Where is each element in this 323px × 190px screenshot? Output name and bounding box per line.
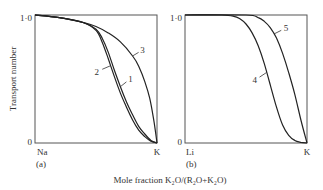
panel-b-xtick-left: Li — [186, 147, 194, 157]
panel-b-xtick-right: K — [304, 147, 311, 157]
panel-b-curve-5-leader — [274, 30, 281, 34]
panel-b-curve-5-label: 5 — [284, 23, 289, 33]
y-axis-label: Transport number — [8, 47, 18, 111]
panel-a-curve-2-label: 2 — [94, 67, 99, 77]
panel-a-xtick-left: Na — [37, 147, 48, 157]
panel-b-label: (b) — [186, 159, 197, 169]
panel-b-ytick-top: 1·0 — [170, 13, 182, 23]
panel-a-curve-3-leader — [133, 52, 139, 56]
panel-b-curve-4-label: 4 — [252, 75, 257, 85]
panel-a-curve-2 — [35, 15, 157, 143]
panel-b-frame — [185, 15, 307, 143]
panel-a-curve-3-label: 3 — [140, 45, 145, 55]
panel-a-xtick-right: K — [154, 147, 161, 157]
panel-a-ytick-bottom: 0 — [28, 137, 33, 147]
panel-a-curves: 123 — [35, 15, 157, 143]
x-axis-caption: Mole fraction K₂O/(R₂O+K₂O) — [114, 175, 227, 185]
panel-b-curve-5 — [185, 15, 307, 143]
panel-a-curve-1-leader — [120, 82, 126, 87]
panel-a-ytick-top: 1·0 — [20, 13, 32, 23]
panel-a: 1·0 0 Na K (a) Transport number 123 — [8, 13, 161, 169]
panel-a-curve-2-leader — [102, 66, 110, 70]
panel-b-curve-4-leader — [260, 72, 267, 77]
panel-b-curves: 45 — [185, 15, 307, 143]
panel-b-curve-4 — [185, 15, 307, 143]
transport-number-chart: 1·0 0 Na K (a) Transport number 123 1·0 … — [0, 0, 323, 190]
panel-a-curve-1-label: 1 — [128, 74, 133, 84]
panel-b-ytick-bottom: 0 — [178, 137, 183, 147]
panel-a-label: (a) — [36, 159, 46, 169]
panel-a-frame — [35, 15, 157, 143]
panel-a-curve-1 — [35, 15, 157, 143]
panel-a-curve-3 — [35, 15, 157, 143]
panel-b: 1·0 0 Li K (b) 45 — [170, 13, 311, 169]
